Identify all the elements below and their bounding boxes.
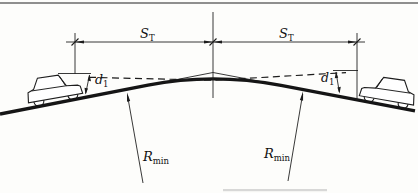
eye-height-dimension-right	[333, 71, 358, 94]
crest-curve-sight-distance-figure: ST ST d1 d1 Rmin Rmin	[0, 0, 418, 193]
tangent-grade-lines	[118, 73, 309, 92]
cropped-caption-remnant	[223, 189, 327, 191]
label-radius-min-left: Rmin	[142, 149, 170, 166]
label-sight-distance-left: ST	[140, 26, 155, 43]
label-radius-min-right: Rmin	[263, 146, 291, 163]
diagram-canvas: ST ST d1 d1 Rmin Rmin	[0, 0, 418, 193]
label-eye-height-right: d1	[321, 70, 334, 87]
radius-leader-left	[127, 93, 143, 184]
radius-leader-right	[288, 92, 303, 182]
label-sight-distance-right: ST	[279, 26, 294, 43]
label-eye-height-left: d1	[95, 72, 108, 89]
sight-distance-dimension	[66, 39, 365, 46]
